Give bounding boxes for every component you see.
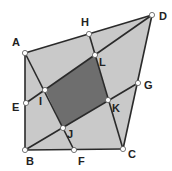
point-I bbox=[42, 87, 47, 92]
label-A: A bbox=[12, 36, 20, 48]
point-J bbox=[60, 125, 65, 130]
point-K bbox=[105, 97, 110, 102]
label-E: E bbox=[12, 101, 19, 113]
label-H: H bbox=[81, 16, 89, 28]
label-B: B bbox=[26, 155, 34, 167]
point-F bbox=[71, 147, 76, 152]
label-J: J bbox=[67, 128, 73, 140]
label-F: F bbox=[78, 155, 85, 167]
label-G: G bbox=[144, 79, 153, 91]
label-D: D bbox=[159, 10, 167, 22]
label-C: C bbox=[128, 148, 136, 160]
point-A bbox=[22, 50, 27, 55]
label-I: I bbox=[39, 95, 42, 107]
point-G bbox=[135, 80, 140, 85]
label-L: L bbox=[99, 56, 106, 68]
quadrilateral-diagram: ABCDEFGHIJKL bbox=[0, 0, 172, 171]
point-B bbox=[22, 147, 27, 152]
point-D bbox=[149, 12, 154, 17]
label-K: K bbox=[112, 102, 120, 114]
point-L bbox=[92, 52, 97, 57]
point-E bbox=[23, 100, 28, 105]
point-H bbox=[86, 31, 91, 36]
point-C bbox=[120, 146, 125, 151]
